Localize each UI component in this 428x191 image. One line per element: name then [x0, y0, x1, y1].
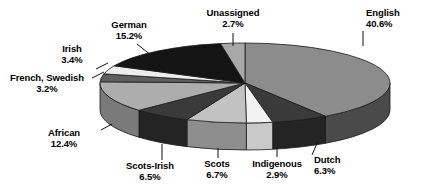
slice-label-irish: Irish 3.4% [50, 44, 94, 65]
pie-slice-side-scots [187, 120, 246, 150]
slice-label-english: English 40.6% [366, 8, 428, 29]
slice-label-german: German 15.2% [95, 20, 163, 41]
slice-label-french-swedish-name: French, Swedish [3, 73, 91, 84]
slice-label-scots-irish-pct: 6.5% [113, 172, 187, 183]
slice-label-dutch-pct: 6.3% [314, 166, 362, 177]
slice-label-english-pct: 40.6% [366, 19, 428, 30]
slice-label-irish-pct: 3.4% [50, 55, 94, 66]
slice-label-indigenous-pct: 2.9% [240, 170, 314, 181]
slice-label-indigenous-name: Indigenous [240, 159, 314, 170]
slice-label-scots-pct: 6.7% [188, 170, 246, 181]
pie-slice-side-indigenous [246, 122, 272, 150]
slice-label-african: African 12.4% [30, 128, 98, 149]
leader-line-irish [96, 63, 108, 69]
slice-label-irish-name: Irish [50, 44, 94, 55]
slice-label-english-name: English [366, 8, 428, 19]
slice-label-french-swedish: French, Swedish 3.2% [3, 73, 91, 94]
slice-label-german-name: German [95, 20, 163, 31]
slice-label-dutch-name: Dutch [314, 155, 362, 166]
slice-label-french-swedish-pct: 3.2% [3, 84, 91, 95]
slice-label-scots: Scots 6.7% [188, 159, 246, 180]
slice-label-unassigned: Unassigned 2.7% [193, 8, 273, 29]
pie-chart-figure: Unassigned 2.7% English 40.6% Dutch 6.3%… [0, 0, 428, 191]
slice-label-scots-name: Scots [188, 159, 246, 170]
slice-label-indigenous: Indigenous 2.9% [240, 159, 314, 180]
slice-label-african-name: African [30, 128, 98, 139]
leader-line-african [101, 124, 112, 130]
slice-label-dutch: Dutch 6.3% [314, 155, 362, 176]
slice-label-scots-irish: Scots-Irish 6.5% [113, 161, 187, 182]
slice-label-unassigned-pct: 2.7% [193, 19, 273, 30]
slice-label-german-pct: 15.2% [95, 31, 163, 42]
slice-label-unassigned-name: Unassigned [193, 8, 273, 19]
slice-label-african-pct: 12.4% [30, 139, 98, 150]
pie-top-group [100, 43, 390, 123]
slice-label-scots-irish-name: Scots-Irish [113, 161, 187, 172]
